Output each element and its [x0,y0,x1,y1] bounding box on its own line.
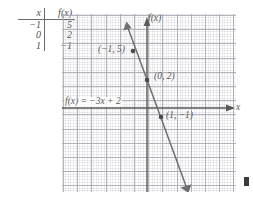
y-axis [144,17,151,192]
table-header-x: x [18,8,45,19]
point-label-neg1-5: (−1, 5) [98,45,125,55]
point-label-0-2: (0, 2) [154,72,175,82]
data-point-1 [131,49,136,54]
table-cell-x: 1 [18,41,45,52]
table-cell-x: 0 [18,30,45,41]
data-point-2 [145,78,150,83]
point-label-1-neg1: (1, −1) [166,111,193,121]
end-of-section-marker [244,177,249,186]
x-axis-label: x [236,103,240,113]
equation-label: f(x) = −3x + 2 [64,97,122,107]
y-axis-label: f(x) [148,14,161,24]
function-line [123,22,191,193]
coordinate-graph: f(x) x (−1, 5) (0, 2) (1, −1) f(x) = −3x… [62,14,236,192]
data-point-3 [159,115,164,120]
